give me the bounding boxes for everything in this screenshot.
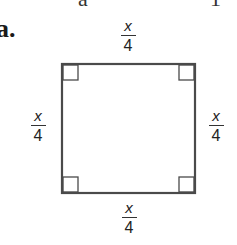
- fraction-bar: [121, 35, 136, 36]
- numerator: x: [34, 108, 42, 123]
- numerator: x: [212, 108, 220, 123]
- numerator: x: [125, 200, 133, 215]
- right-angle-mark-top-left: [63, 65, 78, 80]
- fraction-bar: [209, 125, 224, 126]
- right-angle-mark-top-right: [179, 65, 194, 80]
- denominator: 4: [124, 37, 133, 54]
- denominator: 4: [34, 127, 43, 144]
- fraction-bar: [31, 125, 46, 126]
- side-label-left: x 4: [28, 108, 48, 144]
- denominator: 4: [212, 127, 221, 144]
- denominator: 4: [125, 219, 134, 236]
- side-label-bottom: x 4: [119, 200, 139, 236]
- right-angle-mark-bottom-right: [179, 177, 194, 192]
- square-outline: [62, 64, 195, 193]
- side-label-right: x 4: [206, 108, 226, 144]
- right-angle-mark-bottom-left: [63, 177, 78, 192]
- numerator: x: [124, 18, 132, 33]
- side-label-top: x 4: [118, 18, 138, 54]
- fraction-bar: [122, 217, 137, 218]
